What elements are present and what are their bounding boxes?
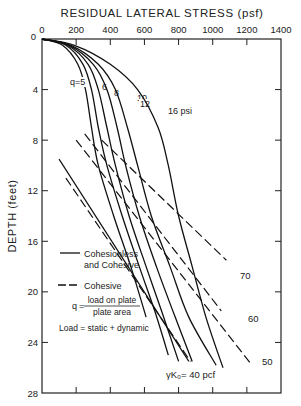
x-tick-label: 1000 bbox=[202, 24, 223, 35]
y-tick-label: 8 bbox=[33, 135, 38, 146]
reference-line-label: γK₀= 40 pcf bbox=[166, 369, 215, 380]
y-tick-label: 20 bbox=[27, 286, 38, 297]
q-numerator: load on plate bbox=[88, 295, 137, 305]
y-tick-label: 16 bbox=[27, 236, 38, 247]
y-tick-label: 12 bbox=[27, 185, 38, 196]
annotations: q = load on plate plate area Load = stat… bbox=[59, 295, 150, 333]
y-tick-label: 0 bbox=[31, 31, 36, 42]
y-axis-label: DEPTH (feet) bbox=[6, 179, 18, 252]
series-label: 16 psi bbox=[168, 106, 192, 116]
load-note: Load = static + dynamic bbox=[59, 323, 150, 333]
x-tick-label: 600 bbox=[136, 24, 152, 35]
reference-line bbox=[102, 140, 227, 260]
y-tick-label: 28 bbox=[27, 388, 38, 399]
x-tick-label: 0 bbox=[39, 24, 44, 35]
q-equals: = bbox=[79, 301, 84, 311]
legend: Cohesionless and Cohesive Cohesive bbox=[58, 249, 139, 291]
q-denominator: plate area bbox=[93, 307, 131, 317]
series-label: q=5 bbox=[70, 77, 85, 87]
x-tick-label: 200 bbox=[68, 24, 84, 35]
y-axis: 0481216202428 bbox=[27, 31, 281, 399]
x-tick-label: 400 bbox=[102, 24, 118, 35]
x-tick-label: 800 bbox=[171, 24, 187, 35]
series-group: q=568101216 psi bbox=[42, 39, 223, 368]
chart: RESIDUAL LATERAL STRESS (psf) 0200400600… bbox=[0, 0, 301, 406]
y-tick-label: 4 bbox=[33, 84, 38, 95]
x-tick-label: 1400 bbox=[270, 24, 291, 35]
reference-line-label: 50 bbox=[262, 356, 273, 367]
legend-solid-label-1: Cohesionless bbox=[84, 249, 139, 259]
reference-line-label: 60 bbox=[248, 313, 259, 324]
y-tick-label: 24 bbox=[27, 337, 38, 348]
plot-frame bbox=[42, 39, 281, 393]
x-tick-label: 1200 bbox=[236, 24, 257, 35]
reference-line-label: 70 bbox=[240, 270, 251, 281]
chart-title: RESIDUAL LATERAL STRESS (psf) bbox=[61, 7, 264, 19]
series-line bbox=[42, 39, 223, 368]
q-symbol: q bbox=[72, 301, 77, 311]
legend-solid-label-2: and Cohesive bbox=[84, 260, 139, 270]
plot-border bbox=[42, 39, 281, 393]
legend-dashed-label: Cohesive bbox=[84, 281, 122, 291]
